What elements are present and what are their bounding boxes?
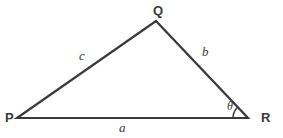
vertex-label-p: P <box>5 111 14 124</box>
angle-arc-icon <box>233 107 238 118</box>
side-label-c: c <box>79 49 85 62</box>
triangle-diagram <box>0 0 283 138</box>
vertex-label-q: Q <box>153 4 163 17</box>
vertex-label-r: R <box>261 111 270 124</box>
side-label-a: a <box>119 121 126 134</box>
triangle-outline <box>17 21 248 118</box>
angle-label-theta: θ <box>227 100 233 112</box>
side-label-b: b <box>202 45 209 58</box>
geometry-figure: P Q R a b c θ <box>0 0 283 138</box>
